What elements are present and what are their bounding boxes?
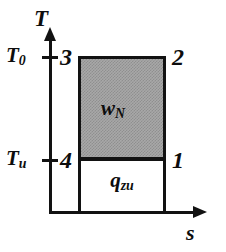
- net-work-label-sub: N: [115, 106, 125, 121]
- y-axis-label: T: [34, 6, 48, 32]
- y-tick-label-tu-main: T: [6, 146, 19, 170]
- heat-added-area-label: qzu: [78, 168, 166, 194]
- y-tick-mark-t0: [42, 56, 58, 59]
- x-axis-label: s: [186, 220, 195, 246]
- heat-added-label-sub: zu: [121, 178, 134, 193]
- state-point-1: 1: [172, 147, 184, 174]
- state-point-4: 4: [60, 147, 72, 174]
- entropy-axis-arrow-icon: [193, 206, 207, 218]
- y-tick-mark-tu: [42, 159, 58, 162]
- y-tick-label-t0: T0: [6, 43, 26, 69]
- y-tick-label-t0-main: T: [6, 43, 19, 67]
- state-point-2: 2: [172, 44, 184, 71]
- heat-added-label-main: q: [110, 168, 121, 192]
- temperature-axis-line: [49, 38, 52, 214]
- ts-diagram: T s T0 Tu wN qzu 3 2 4 1: [0, 0, 226, 252]
- y-tick-label-tu: Tu: [6, 146, 27, 172]
- net-work-label-main: w: [101, 96, 115, 120]
- net-work-area-label: wN: [0, 96, 226, 122]
- y-tick-label-tu-sub: u: [19, 156, 27, 171]
- y-tick-label-t0-sub: 0: [19, 53, 26, 68]
- state-point-3: 3: [60, 44, 72, 71]
